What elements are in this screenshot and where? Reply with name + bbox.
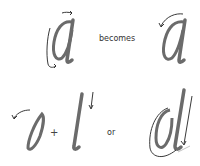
- arrow-icon: [184, 96, 192, 144]
- glyph-o: [12, 110, 43, 149]
- letter-strokes-illustration: [0, 0, 200, 166]
- or-label: or: [107, 128, 115, 138]
- becomes-label: becomes: [99, 34, 135, 44]
- arrow-icon: [62, 12, 72, 13]
- glyph-l: [74, 92, 93, 149]
- plus-sign: +: [50, 128, 58, 138]
- glyph-a-right: [159, 14, 185, 62]
- glyph-d: [150, 90, 192, 157]
- calligraphy-diagram: becomes + or: [0, 0, 200, 166]
- glyph-a-left: [47, 11, 73, 68]
